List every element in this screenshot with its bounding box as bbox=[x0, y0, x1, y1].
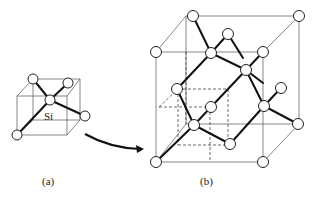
atom-si-center bbox=[45, 95, 55, 105]
atom-corner bbox=[151, 157, 162, 168]
atom-corner bbox=[151, 47, 162, 58]
atom-tetrahedral bbox=[259, 101, 270, 112]
atom-corner bbox=[294, 11, 305, 22]
atom-face-center bbox=[223, 29, 234, 40]
si-atom-label: Si bbox=[44, 110, 53, 122]
panel-b: (b) bbox=[151, 11, 305, 189]
atom-face-center bbox=[225, 139, 236, 150]
arrowhead-icon bbox=[136, 145, 144, 153]
panel-b-label: (b) bbox=[200, 175, 213, 188]
atom-corner bbox=[258, 47, 269, 58]
atom-tetrahedral bbox=[189, 120, 200, 131]
atom-corner bbox=[258, 157, 269, 168]
si-bonds bbox=[17, 79, 85, 135]
atom-tetrahedral bbox=[241, 65, 252, 76]
atom-face-center bbox=[206, 48, 217, 59]
atom-corner bbox=[188, 11, 199, 22]
atom-corner bbox=[293, 119, 304, 130]
atom-face-center bbox=[276, 83, 287, 94]
atom-corner bbox=[80, 111, 90, 121]
panel-a-label: (a) bbox=[42, 175, 55, 188]
atom-corner bbox=[12, 130, 22, 140]
atom-face-center bbox=[206, 102, 217, 113]
transition-arrow bbox=[85, 134, 144, 153]
atom-corner bbox=[28, 74, 38, 84]
silicon-crystal-diagram: Si (a) bbox=[0, 0, 315, 198]
panel-a: Si (a) bbox=[12, 74, 90, 188]
atom-face-center bbox=[172, 84, 183, 95]
atom-corner bbox=[63, 78, 73, 88]
